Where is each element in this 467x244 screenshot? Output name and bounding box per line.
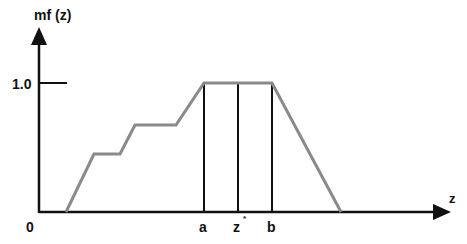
y-tick-label: 1.0 — [12, 76, 32, 92]
marker-label-zstar: z — [233, 219, 240, 235]
x-axis-arrow-icon — [433, 204, 451, 220]
marker-label-a: a — [199, 219, 207, 235]
marker-label-b: b — [267, 219, 276, 235]
membership-function-diagram: mf (z) 1.0 0 z a z * b — [0, 0, 467, 244]
y-axis-arrow-icon — [31, 27, 47, 45]
y-axis-label: mf (z) — [34, 7, 71, 23]
marker-label-zstar-superscript: * — [243, 214, 247, 223]
x-axis-label: z — [449, 191, 456, 206]
origin-label: 0 — [26, 219, 34, 235]
